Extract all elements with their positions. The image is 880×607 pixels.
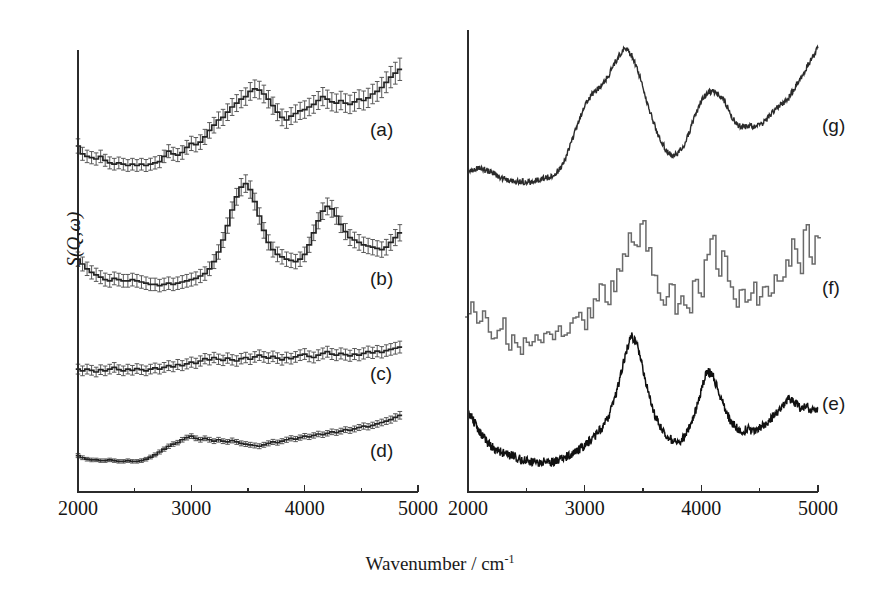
axis-left xyxy=(78,50,418,492)
panel-left xyxy=(76,58,402,463)
trace-line xyxy=(76,415,402,461)
x-tick-label-right-5000: 5000 xyxy=(783,497,853,520)
x-axis-label-text: Wavenumber / cm xyxy=(366,553,505,574)
error-bars xyxy=(76,411,402,463)
trace-label-a: (a) xyxy=(370,119,393,141)
trace-line xyxy=(465,221,821,354)
trace-label-d: (d) xyxy=(370,440,393,462)
trace-d xyxy=(76,411,402,463)
trace-label-c: (c) xyxy=(370,363,392,385)
figure-root: S(Q,ω) 20003000400050002000300040005000 … xyxy=(0,0,880,607)
trace-g xyxy=(468,47,818,185)
trace-label-e: (e) xyxy=(822,393,845,415)
trace-line xyxy=(468,47,818,185)
trace-a xyxy=(76,58,402,171)
trace-c xyxy=(76,341,402,377)
trace-b xyxy=(76,175,402,292)
trace-f xyxy=(465,221,821,354)
axis-spine xyxy=(78,50,418,492)
y-axis-label: S(Q,ω) xyxy=(63,159,85,319)
trace-label-f: (f) xyxy=(822,277,840,299)
x-tick-label-right-4000: 4000 xyxy=(666,497,736,520)
trace-line xyxy=(76,184,402,286)
x-axis-label: Wavenumber / cm-1 xyxy=(0,552,880,575)
x-tick-label-left-2000: 2000 xyxy=(43,497,113,520)
error-bars xyxy=(76,58,402,171)
trace-line xyxy=(76,69,402,165)
x-tick-label-left-3000: 3000 xyxy=(156,497,226,520)
trace-label-g: (g) xyxy=(822,115,845,137)
x-tick-label-right-3000: 3000 xyxy=(550,497,620,520)
panel-right xyxy=(465,47,821,467)
x-axis-label-exponent: -1 xyxy=(504,552,514,566)
trace-label-b: (b) xyxy=(370,268,393,290)
axes-group xyxy=(78,30,818,492)
x-tick-label-left-4000: 4000 xyxy=(270,497,340,520)
x-tick-label-right-2000: 2000 xyxy=(433,497,503,520)
